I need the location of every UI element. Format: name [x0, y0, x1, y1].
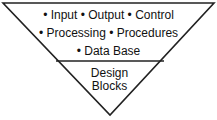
bottom-line-2: Blocks	[1, 80, 217, 93]
top-line-1: • Input • Output • Control	[0, 8, 217, 22]
top-line-2: • Processing • Procedures	[0, 26, 217, 40]
top-line-3: • Data Base	[0, 44, 217, 58]
